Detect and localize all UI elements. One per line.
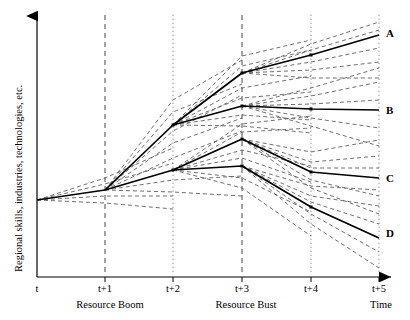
trajectory-chart-svg (0, 0, 410, 320)
y-axis-label: Regional skills, industries, technologie… (14, 85, 25, 272)
annotation-resource-bust: Resource Bust (216, 300, 277, 311)
x-axis-label: Time (370, 300, 392, 311)
figure-canvas: Regional skills, industries, technologie… (0, 0, 410, 320)
endpoint-label-a: A (386, 28, 394, 39)
axes-group (37, 16, 391, 277)
axis-ticks (105, 277, 379, 282)
path-D (173, 166, 379, 238)
x-tick-t5: t+5 (372, 284, 386, 295)
annotation-resource-boom: Resource Boom (76, 300, 143, 311)
x-tick-t2: t+2 (166, 284, 180, 295)
endpoint-label-b: B (386, 105, 393, 116)
path-trunk (37, 190, 105, 200)
path-A (173, 35, 379, 125)
endpoint-label-c: C (386, 173, 394, 184)
path-C (173, 139, 379, 178)
x-tick-t4: t+4 (304, 284, 318, 295)
x-tick-t1: t+1 (98, 284, 112, 295)
observed-solid-paths (37, 35, 379, 238)
event-marker-lines (105, 14, 379, 272)
x-tick-t3: t+3 (235, 284, 249, 295)
counterfactual-dashed-paths (37, 22, 379, 268)
x-tick-t: t (36, 284, 39, 295)
endpoint-label-d: D (386, 228, 394, 239)
